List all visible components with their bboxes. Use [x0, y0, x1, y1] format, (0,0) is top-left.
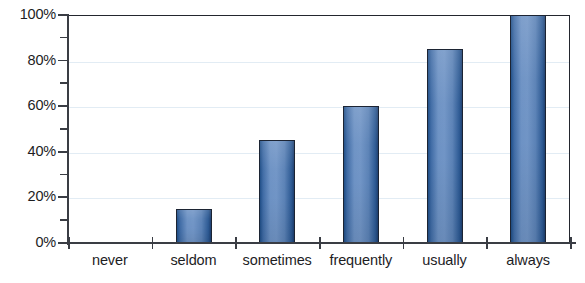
gridline [69, 198, 569, 199]
y-axis-tick-label: 0% [35, 234, 56, 250]
x-axis-tick [486, 237, 488, 249]
y-axis-minor-tick [60, 174, 67, 176]
y-axis-tick [58, 60, 68, 62]
x-axis-label-always: always [506, 252, 550, 268]
bar-frequently[interactable] [343, 106, 379, 243]
y-axis-tick [58, 151, 68, 153]
x-axis-label-sometimes: sometimes [243, 252, 312, 268]
y-axis-tick-label: 20% [28, 188, 56, 204]
y-axis-minor-tick [60, 128, 67, 130]
y-axis-tick [58, 14, 68, 16]
y-axis-tick-label: 80% [28, 52, 56, 68]
plot-area [68, 15, 570, 243]
gridline [69, 153, 569, 154]
y-axis-tick-label: 100% [20, 6, 56, 22]
y-axis-line [67, 14, 69, 245]
gridline [69, 62, 569, 63]
bar-seldom[interactable] [176, 209, 212, 243]
x-axis-label-frequently: frequently [329, 252, 392, 268]
y-axis-minor-tick [60, 82, 67, 84]
bar-sometimes[interactable] [259, 140, 295, 243]
x-axis-tick [570, 237, 572, 249]
x-axis-tick [403, 237, 405, 249]
y-axis-tick-label: 60% [28, 97, 56, 113]
bar-always[interactable] [510, 15, 546, 243]
x-axis-label-never: never [92, 252, 128, 268]
gridline [69, 107, 569, 108]
bar-usually[interactable] [427, 49, 463, 243]
x-axis-tick [152, 237, 154, 249]
gridlines [69, 16, 569, 242]
y-axis-tick-label: 40% [28, 143, 56, 159]
bar-chart: 0%20%40%60%80%100% neverseldomsometimesf… [0, 0, 585, 283]
x-axis-tick [68, 237, 70, 249]
x-axis-label-usually: usually [422, 252, 466, 268]
y-axis-tick [58, 196, 68, 198]
x-axis-tick [319, 237, 321, 249]
y-axis-tick [58, 105, 68, 107]
x-axis-label-seldom: seldom [170, 252, 216, 268]
y-axis-minor-tick [60, 219, 67, 221]
y-axis-minor-tick [60, 37, 67, 39]
x-axis-tick [235, 237, 237, 249]
